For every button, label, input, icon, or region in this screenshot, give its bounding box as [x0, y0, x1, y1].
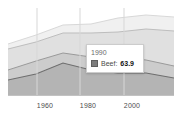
x-tick-1960: 1960: [37, 101, 53, 110]
x-axis: 1960 1980 2000: [8, 96, 174, 120]
stacked-area-chart: 1960 1980 2000 1990 Beef: 63.9: [0, 0, 180, 120]
tooltip-series-row: Beef: 63.9: [91, 59, 139, 68]
tooltip-series-value: 63.9: [120, 59, 134, 68]
x-tick-1980: 1980: [80, 101, 96, 110]
series-color-swatch-icon: [91, 60, 98, 67]
chart-tooltip: 1990 Beef: 63.9: [86, 44, 144, 73]
tooltip-title: 1990: [91, 48, 139, 57]
x-tick-2000: 2000: [124, 101, 140, 110]
tooltip-series-label: Beef:: [101, 59, 117, 68]
